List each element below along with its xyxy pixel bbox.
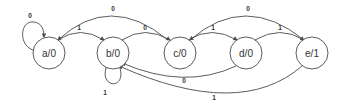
state-label: b/0	[106, 48, 120, 59]
state-label: e/1	[305, 48, 319, 59]
transition-e-to-c	[190, 16, 304, 40]
transition-label: 0	[28, 12, 32, 19]
state-b: b/0	[97, 37, 129, 69]
transition-label: 0	[182, 77, 186, 84]
transition-b-to-b	[105, 68, 121, 84]
state-e: e/1	[296, 37, 328, 69]
state-label: d/0	[239, 48, 253, 59]
transition-c-to-a	[58, 16, 168, 40]
transition-c-to-d	[188, 33, 237, 41]
transition-label: 1	[278, 24, 282, 31]
transition-label: 1	[103, 89, 107, 96]
transition-label: 1	[211, 24, 215, 31]
state-diagram: a/0b/0c/0d/0e/1 0110011001	[0, 0, 347, 108]
transition-e-to-b	[119, 66, 302, 93]
state-d: d/0	[230, 37, 262, 69]
state-diagram-svg: a/0b/0c/0d/0e/1 0110011001	[0, 0, 347, 108]
transition-label: 0	[111, 5, 115, 12]
transition-label: 0	[246, 5, 250, 12]
state-label: a/0	[42, 48, 56, 59]
transition-label: 1	[212, 94, 216, 101]
state-a: a/0	[33, 37, 65, 69]
state-c: c/0	[164, 37, 196, 69]
transition-d-to-e	[255, 33, 304, 41]
transition-label: 0	[143, 24, 147, 31]
transition-label: 1	[77, 24, 81, 31]
state-label: c/0	[173, 48, 187, 59]
